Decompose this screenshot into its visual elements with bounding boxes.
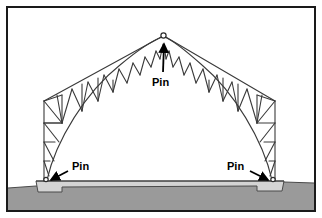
left-base-pin-label: Pin [72,160,89,172]
truss-diagram-svg: Pin Pin Pin [0,0,322,218]
left-base-pin-joint [44,177,48,181]
figure-root: Pin Pin Pin [0,0,322,218]
right-base-pin-joint [271,177,275,181]
right-base-pin-label: Pin [227,160,244,172]
apex-pin-arrow [163,44,164,72]
apex-pin-label: Pin [152,76,169,88]
apex-pin-joint [161,33,166,38]
